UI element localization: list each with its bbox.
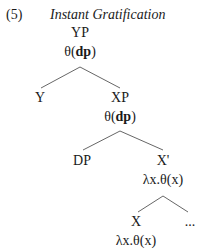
node-x-label: X: [131, 214, 141, 230]
edge-xp-xbar: [120, 131, 163, 150]
edge-yp-y: [41, 67, 80, 88]
node-yp-label: YP: [71, 25, 89, 41]
node-yp-semantics: θ(dp): [64, 44, 96, 60]
sem-bold: dp: [116, 109, 132, 124]
node-xbar-label: X': [157, 153, 170, 169]
node-y-label: Y: [35, 90, 45, 106]
example-number: (5): [6, 7, 22, 23]
node-xp-semantics: θ(dp): [104, 109, 136, 125]
sem-bold: dp: [76, 44, 92, 59]
sem-text: ): [131, 109, 136, 124]
node-x-semantics: λx.θ(x): [116, 233, 156, 249]
sem-text: ): [91, 44, 96, 59]
node-dp-label: DP: [73, 153, 91, 169]
example-title: Instant Gratification: [50, 7, 166, 23]
node-ellipsis: ...: [185, 214, 196, 230]
sem-text: θ(: [64, 44, 75, 59]
node-xbar-semantics: λx.θ(x): [143, 172, 183, 188]
edge-yp-xp: [80, 67, 120, 88]
node-xp-label: XP: [111, 90, 129, 106]
edge-xp-dp: [83, 131, 120, 150]
edge-xbar-ellipsis: [163, 196, 188, 212]
edge-xbar-x: [138, 196, 163, 212]
sem-text: θ(: [104, 109, 115, 124]
